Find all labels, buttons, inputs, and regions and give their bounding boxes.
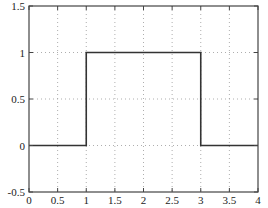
x-tick-label: 4 (255, 194, 261, 206)
x-tick-label: 1 (84, 194, 90, 206)
x-tick-label: 2 (141, 194, 147, 206)
x-tick-label: 0.5 (51, 194, 65, 206)
x-tick-label: 0 (26, 194, 32, 206)
y-axis-tick-labels: -0.500.511.5 (8, 0, 26, 198)
y-tick-label: -0.5 (8, 186, 26, 198)
x-tick-label: 1.5 (108, 194, 122, 206)
x-tick-label: 3 (198, 194, 204, 206)
y-tick-label: 1 (20, 47, 26, 59)
pulse-chart: 00.511.522.533.54 -0.500.511.5 (0, 0, 268, 208)
x-axis-tick-labels: 00.511.522.533.54 (26, 194, 261, 206)
x-tick-label: 2.5 (165, 194, 179, 206)
y-tick-label: 0.5 (11, 93, 25, 105)
grid-lines (29, 6, 258, 192)
y-tick-label: 1.5 (11, 0, 25, 12)
x-tick-label: 3.5 (223, 194, 237, 206)
y-tick-label: 0 (20, 140, 26, 152)
